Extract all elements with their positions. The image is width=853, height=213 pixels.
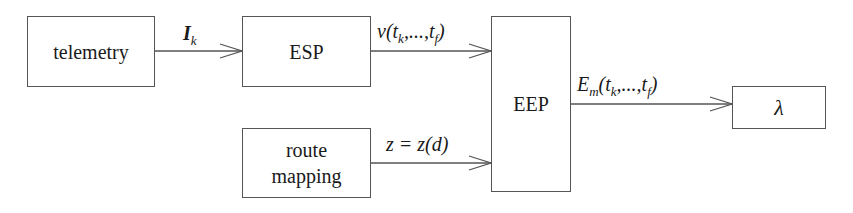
esp-box: ESP bbox=[242, 16, 371, 87]
edge-label-elevation: z = z(d) bbox=[386, 133, 448, 155]
eep-label: EEP bbox=[513, 91, 549, 117]
edge-label-velocity: v(tk,...,tf) bbox=[377, 20, 445, 50]
eep-box: EEP bbox=[491, 16, 571, 192]
lambda-label: λ bbox=[774, 95, 784, 121]
route-mapping-label-line1: route bbox=[286, 137, 327, 163]
telemetry-label: telemetry bbox=[53, 39, 129, 65]
esp-label: ESP bbox=[289, 39, 323, 65]
route-mapping-box: route mapping bbox=[242, 128, 371, 198]
route-mapping-label-line2: mapping bbox=[272, 163, 342, 189]
edge-label-ik: Ik bbox=[183, 22, 197, 52]
edge-label-energy: Em(tk,...,tf) bbox=[577, 73, 657, 103]
lambda-box: λ bbox=[732, 86, 826, 129]
telemetry-box: telemetry bbox=[27, 16, 155, 87]
